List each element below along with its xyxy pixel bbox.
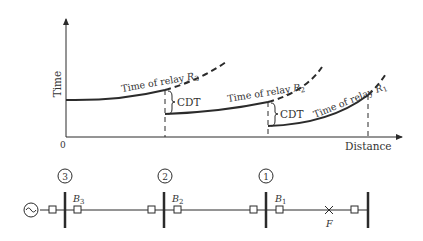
breaker-left-bus2	[148, 206, 155, 213]
breaker-b3	[74, 206, 81, 213]
bus-2: 2 B2	[148, 169, 183, 228]
svg-text:Time of relay R1: Time of relay R1	[312, 80, 389, 121]
breaker-b1	[276, 206, 283, 213]
breaker-b2	[174, 206, 181, 213]
relay-coordination-diagram: Time Distance 0 Time of relay R3 CDT Tim…	[0, 0, 423, 241]
breaker-end	[351, 206, 358, 213]
svg-text:2: 2	[162, 172, 168, 182]
time-distance-graph: Time Distance 0 Time of relay R3 CDT Tim…	[51, 19, 402, 152]
bus-1: 1 B1	[250, 169, 286, 228]
svg-text:B3: B3	[72, 193, 84, 206]
fault-label: F	[325, 218, 333, 229]
breaker-left-bus1	[250, 206, 257, 213]
svg-text:3: 3	[62, 172, 68, 182]
fault-marker-icon: F	[325, 206, 333, 229]
cdt-brace-1: CDT	[168, 91, 200, 114]
curve-relay-r3: Time of relay R3	[66, 62, 226, 100]
single-line-diagram: 3 B3 2 B2 1 B1 F	[24, 169, 368, 229]
generator-source-icon	[24, 203, 38, 217]
svg-text:CDT: CDT	[280, 108, 303, 120]
svg-text:CDT: CDT	[177, 96, 200, 108]
svg-text:B2: B2	[171, 193, 183, 206]
svg-text:B1: B1	[274, 193, 286, 206]
origin-label: 0	[60, 140, 66, 150]
bus-3: 3 B3	[49, 169, 84, 228]
y-axis-label: Time	[51, 71, 63, 98]
svg-text:1: 1	[263, 172, 269, 182]
breaker-left-bus3	[49, 206, 56, 213]
x-axis-label: Distance	[345, 140, 392, 152]
